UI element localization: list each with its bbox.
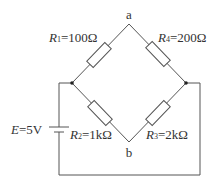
label-r3: R3=2kΩ [145, 127, 188, 142]
resistor-r1 [87, 43, 112, 68]
label-source-e: E=5V [10, 122, 43, 137]
junction-left [70, 81, 74, 85]
label-r1: R1=100Ω [48, 30, 97, 45]
bridge-circuit-diagram: a b R1=100Ω R4=200Ω R2=1kΩ R3=2kΩ E=5V [0, 0, 216, 188]
label-r4: R4=200Ω [157, 30, 206, 45]
resistor-r2 [88, 101, 113, 126]
junction-right [184, 81, 188, 85]
wire-left-upper [59, 83, 72, 127]
resistor-r4 [146, 42, 171, 67]
node-label-a: a [126, 7, 132, 22]
label-r2: R2=1kΩ [69, 127, 112, 142]
resistor-r3 [146, 101, 171, 126]
node-label-b: b [126, 145, 133, 160]
